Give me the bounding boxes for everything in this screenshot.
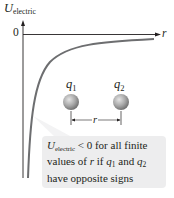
- callout-line-1-text: < 0 for all finite: [75, 139, 148, 151]
- charge-q1-subscript: 1: [72, 83, 76, 93]
- x-axis-label: r: [162, 28, 166, 40]
- callout-u-symbol: U: [47, 139, 55, 151]
- callout-line-2-pre: values of: [47, 155, 90, 167]
- charge-q2-sphere: [113, 94, 129, 110]
- callout-text: Uelectric < 0 for all finite values of r…: [47, 139, 148, 185]
- callout-line-3: have opposite signs: [47, 172, 148, 186]
- x-axis-arrow-icon: [155, 33, 161, 37]
- separation-arrow-right-icon: [117, 119, 121, 122]
- callout-line-2-mid: if: [94, 155, 106, 167]
- callout-line-2: values of r if q1 and q2: [47, 155, 148, 172]
- y-axis-symbol: U: [4, 1, 13, 15]
- charge-q2-subscript: 2: [120, 83, 124, 93]
- y-axis-arrow-icon: [21, 20, 25, 26]
- callout-line-2-and: and: [116, 155, 137, 167]
- callout-u-subscript: electric: [55, 145, 75, 152]
- potential-energy-diagram: Uelectric 0 r q1 q2 r Uelectric < 0 for …: [0, 0, 174, 198]
- callout-q2-subscript: 2: [142, 160, 146, 169]
- separation-arrow-left-icon: [72, 119, 76, 122]
- charge-q1-label: q1: [66, 78, 77, 92]
- origin-label: 0: [13, 27, 19, 39]
- charge-q2-label: q2: [114, 78, 125, 92]
- separation-label: r: [92, 115, 98, 126]
- callout-line-1: Uelectric < 0 for all finite: [47, 139, 148, 155]
- y-axis-subscript: electric: [13, 7, 36, 16]
- callout-pointer: [33, 116, 72, 137]
- y-axis-label: Uelectric: [4, 2, 36, 16]
- charge-q1-sphere: [63, 94, 79, 110]
